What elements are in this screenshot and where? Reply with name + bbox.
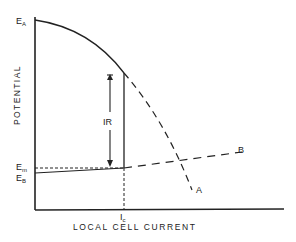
curve-b-solid (35, 168, 124, 173)
curve-a-solid (35, 20, 124, 73)
label-ea: EA (16, 16, 26, 27)
label-curve-a: A (196, 185, 202, 195)
evans-diagram: EA Em EB Ic IR A B LOCAL CELL CURRENT PO… (0, 0, 296, 242)
ir-arrowhead-icon (107, 160, 113, 167)
curve-b-dashed (124, 152, 242, 168)
curve-a-dashed (124, 73, 192, 190)
label-ir: IR (103, 117, 113, 127)
diagram-canvas: EA Em EB Ic IR A B LOCAL CELL CURRENT PO… (0, 0, 296, 242)
label-em: Em (16, 162, 27, 173)
label-curve-b: B (238, 145, 244, 155)
x-axis-label: LOCAL CELL CURRENT (73, 222, 197, 232)
y-axis-label: POTENTIAL (12, 65, 22, 125)
label-eb: EB (16, 173, 26, 184)
x-axis (35, 209, 284, 210)
